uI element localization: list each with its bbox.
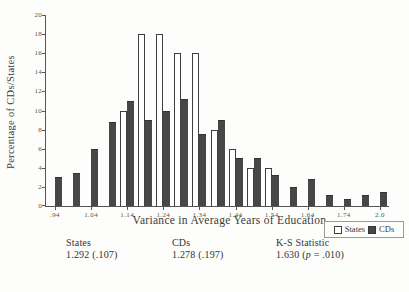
stat-ks-label: K-S Statistic	[276, 237, 344, 249]
y-tick-mark	[42, 91, 45, 92]
bar-cds-1.14	[127, 101, 134, 206]
x-axis-title: Variance in Average Years of Education	[122, 214, 337, 226]
stat-cds: CDs 1.278 (.197)	[172, 237, 224, 261]
y-tick-label: 2	[20, 183, 42, 191]
bar-cds-2.0	[380, 192, 387, 206]
y-tick-mark	[42, 15, 45, 16]
x-tick-mark	[344, 207, 345, 210]
x-tick-mark	[127, 207, 128, 210]
y-tick-label: 16	[20, 49, 42, 57]
x-tick-mark	[272, 207, 273, 210]
y-tick-label: 8	[20, 126, 42, 134]
y-tick-label: 6	[20, 145, 42, 153]
y-tick-label: 18	[20, 30, 42, 38]
x-tick-mark	[91, 207, 92, 210]
y-tick-mark	[42, 187, 45, 188]
y-tick-mark	[42, 130, 45, 131]
stat-states-label: States	[66, 237, 118, 249]
y-tick-mark	[42, 168, 45, 169]
bar-cds-1.19	[145, 120, 152, 206]
x-tick-mark	[163, 207, 164, 210]
stat-ks-value: 1.630 (p = .010)	[276, 249, 344, 261]
y-tick-mark	[42, 72, 45, 73]
y-tick-label: 20	[20, 11, 42, 19]
bar-cds-1.69	[326, 195, 333, 206]
bar-cds-1.74	[344, 199, 351, 206]
bar-states-1.29	[174, 53, 181, 206]
y-tick-mark	[42, 111, 45, 112]
stat-cds-value: 1.278 (.197)	[172, 249, 224, 261]
bar-cds-1.04	[91, 149, 98, 206]
bar-cds-.94	[55, 177, 62, 206]
bar-states-1.39	[211, 130, 218, 206]
y-tick-mark	[42, 149, 45, 150]
legend-swatch-cds	[368, 226, 376, 234]
x-tick-label: .94	[40, 211, 70, 219]
x-tick-mark	[380, 207, 381, 210]
figure-bar-chart: Percentage of CDs/States 024681012141618…	[0, 0, 409, 292]
x-tick-mark	[199, 207, 200, 210]
y-tick-label: 14	[20, 68, 42, 76]
bar-cds-1.59	[290, 187, 297, 206]
x-tick-mark	[308, 207, 309, 210]
bar-states-1.34	[192, 53, 199, 206]
bar-states-1.49	[247, 168, 254, 206]
bar-states-1.54	[265, 168, 272, 206]
plot-area: 02468101214161820.941.041.141.241.341.44…	[45, 15, 389, 207]
stat-states-value: 1.292 (.107)	[66, 249, 118, 261]
bar-cds-1.39	[218, 120, 225, 206]
bar-cds-.99	[73, 173, 80, 206]
bar-states-1.19	[138, 34, 145, 206]
y-tick-mark	[42, 205, 45, 206]
stat-states: States 1.292 (.107)	[66, 237, 118, 261]
bar-states-1.44	[229, 149, 236, 206]
legend: States CDs	[324, 221, 404, 238]
legend-label-cds: CDs	[379, 225, 394, 234]
y-tick-mark	[42, 34, 45, 35]
bar-cds-1.54	[272, 175, 279, 207]
bar-cds-1.64	[308, 179, 315, 206]
bar-cds-1.44	[236, 158, 243, 206]
x-tick-label: 1.04	[76, 211, 106, 219]
bar-cds-1.79	[362, 195, 369, 206]
bar-cds-1.34	[199, 134, 206, 206]
bar-cds-1.29	[181, 99, 188, 206]
y-tick-label: 10	[20, 107, 42, 115]
y-tick-label: 4	[20, 164, 42, 172]
x-tick-mark	[55, 207, 56, 210]
y-tick-mark	[42, 53, 45, 54]
y-tick-label: 12	[20, 87, 42, 95]
y-tick-label: 0	[20, 202, 42, 210]
bar-cds-1.24	[163, 111, 170, 207]
x-tick-mark	[236, 207, 237, 210]
bar-states-1.24	[156, 34, 163, 206]
stat-ks-statistic: K-S Statistic 1.630 (p = .010)	[276, 237, 344, 261]
x-tick-label: 2.0	[365, 211, 395, 219]
bar-states-1.14	[120, 111, 127, 207]
bar-cds-1.49	[254, 158, 261, 206]
y-axis-title: Percentage of CDs/States	[5, 48, 16, 176]
legend-swatch-states	[334, 226, 342, 234]
stat-cds-label: CDs	[172, 237, 224, 249]
bar-cds-1.09	[109, 122, 116, 206]
legend-label-states: States	[345, 225, 365, 234]
